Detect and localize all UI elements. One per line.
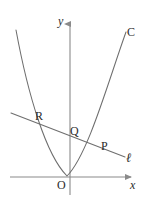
point-label-p: P — [101, 140, 108, 152]
geometry-figure: y x O C ℓ R Q P — [0, 0, 150, 202]
curve-label-c: C — [127, 26, 135, 38]
y-axis-label: y — [58, 15, 63, 27]
point-label-q: Q — [70, 125, 79, 137]
point-label-r: R — [35, 110, 43, 122]
parabola-curve-c — [16, 30, 126, 176]
line-label-ell: ℓ — [126, 151, 131, 164]
origin-label: O — [57, 179, 66, 191]
x-axis-label: x — [130, 179, 135, 191]
